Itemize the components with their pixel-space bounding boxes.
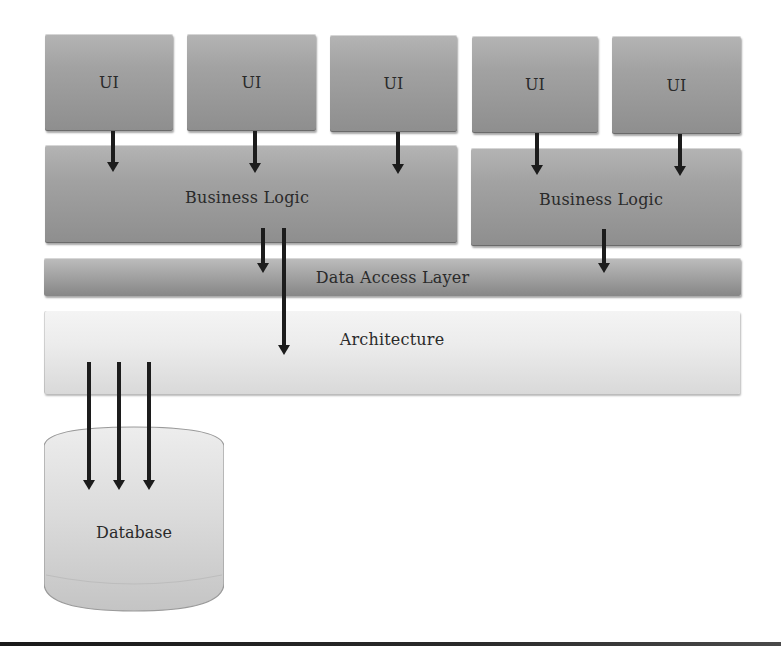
ui-box-5: UI <box>612 36 741 134</box>
ui-box-label: UI <box>241 73 261 92</box>
bottom-border <box>0 642 781 646</box>
data-access-layer-label: Data Access Layer <box>316 268 470 287</box>
ui-box-label: UI <box>666 76 686 95</box>
database-icon <box>44 425 224 613</box>
business-logic-label: Business Logic <box>539 190 663 209</box>
ui-box-1: UI <box>45 34 173 131</box>
ui-box-label: UI <box>525 75 545 94</box>
business-logic-box-2: Business Logic <box>471 148 741 246</box>
business-logic-label: Business Logic <box>185 188 309 207</box>
ui-box-3: UI <box>330 35 457 132</box>
data-access-layer-box: Data Access Layer <box>44 258 741 296</box>
ui-box-label: UI <box>383 74 403 93</box>
ui-box-4: UI <box>472 36 598 133</box>
ui-box-2: UI <box>187 34 316 131</box>
architecture-label: Architecture <box>340 330 445 349</box>
database-label: Database <box>44 523 224 542</box>
database-cylinder: Database <box>44 425 224 613</box>
ui-box-label: UI <box>99 73 119 92</box>
